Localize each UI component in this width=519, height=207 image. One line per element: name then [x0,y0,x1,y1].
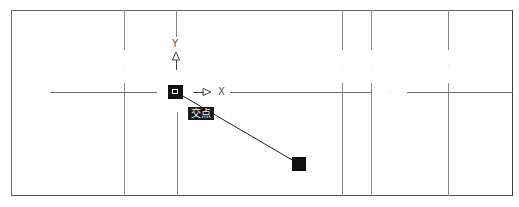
drawing-canvas[interactable]: Y X 交点 [0,0,519,207]
ucs-arrows [0,0,519,207]
snap-tooltip: 交点 [188,107,214,120]
intersection-snap-marker-icon [172,89,178,94]
x-axis-label: X [218,87,225,97]
y-axis-arrow-icon [173,52,180,60]
x-axis-arrow-icon [203,89,211,96]
rubber-band-line [176,92,299,164]
grip-endpoint[interactable] [292,157,306,171]
y-axis-label: Y [172,39,178,49]
crosshair-cursor-pickbox [168,85,183,99]
